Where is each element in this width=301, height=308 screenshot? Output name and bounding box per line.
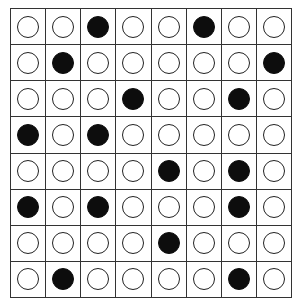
board-cell-r1-c5[interactable]	[187, 45, 222, 81]
empty-circle-icon	[52, 196, 74, 218]
filled-circle-icon	[228, 160, 250, 182]
board-cell-r4-c3[interactable]	[116, 154, 151, 190]
board-cell-r3-c1[interactable]	[46, 117, 81, 153]
board-cell-r5-c0[interactable]	[11, 190, 46, 226]
empty-circle-icon	[17, 52, 39, 74]
empty-circle-icon	[263, 232, 285, 254]
filled-circle-icon	[158, 232, 180, 254]
board-cell-r0-c7[interactable]	[257, 9, 292, 45]
empty-circle-icon	[17, 268, 39, 290]
board-cell-r6-c4[interactable]	[152, 226, 187, 262]
board-cell-r6-c3[interactable]	[116, 226, 151, 262]
empty-circle-icon	[158, 88, 180, 110]
board-cell-r4-c4[interactable]	[152, 154, 187, 190]
board-cell-r5-c1[interactable]	[46, 190, 81, 226]
board-cell-r0-c2[interactable]	[81, 9, 116, 45]
empty-circle-icon	[263, 196, 285, 218]
board-cell-r0-c4[interactable]	[152, 9, 187, 45]
filled-circle-icon	[87, 124, 109, 146]
board-cell-r4-c0[interactable]	[11, 154, 46, 190]
board-cell-r0-c5[interactable]	[187, 9, 222, 45]
board-cell-r1-c6[interactable]	[222, 45, 257, 81]
board-cell-r6-c7[interactable]	[257, 226, 292, 262]
board-cell-r3-c6[interactable]	[222, 117, 257, 153]
empty-circle-icon	[87, 160, 109, 182]
board-cell-r6-c0[interactable]	[11, 226, 46, 262]
board-cell-r4-c6[interactable]	[222, 154, 257, 190]
empty-circle-icon	[17, 160, 39, 182]
board-cell-r7-c0[interactable]	[11, 262, 46, 298]
board-cell-r3-c4[interactable]	[152, 117, 187, 153]
board-cell-r4-c5[interactable]	[187, 154, 222, 190]
board-cell-r7-c2[interactable]	[81, 262, 116, 298]
board-cell-r5-c2[interactable]	[81, 190, 116, 226]
board-cell-r7-c1[interactable]	[46, 262, 81, 298]
filled-circle-icon	[52, 52, 74, 74]
filled-circle-icon	[158, 160, 180, 182]
board-cell-r5-c7[interactable]	[257, 190, 292, 226]
board-cell-r1-c4[interactable]	[152, 45, 187, 81]
empty-circle-icon	[263, 88, 285, 110]
board-cell-r4-c1[interactable]	[46, 154, 81, 190]
board-cell-r2-c2[interactable]	[81, 81, 116, 117]
empty-circle-icon	[52, 124, 74, 146]
board-cell-r3-c5[interactable]	[187, 117, 222, 153]
board-cell-r7-c3[interactable]	[116, 262, 151, 298]
board-cell-r1-c3[interactable]	[116, 45, 151, 81]
board-cell-r7-c6[interactable]	[222, 262, 257, 298]
board-cell-r6-c1[interactable]	[46, 226, 81, 262]
board-cell-r2-c5[interactable]	[187, 81, 222, 117]
board-cell-r5-c4[interactable]	[152, 190, 187, 226]
board-cell-r0-c3[interactable]	[116, 9, 151, 45]
empty-circle-icon	[122, 124, 144, 146]
empty-circle-icon	[52, 232, 74, 254]
empty-circle-icon	[122, 196, 144, 218]
empty-circle-icon	[158, 124, 180, 146]
board-cell-r5-c6[interactable]	[222, 190, 257, 226]
board-cell-r4-c7[interactable]	[257, 154, 292, 190]
board-cell-r5-c5[interactable]	[187, 190, 222, 226]
board-cell-r7-c4[interactable]	[152, 262, 187, 298]
filled-circle-icon	[263, 52, 285, 74]
empty-circle-icon	[193, 52, 215, 74]
filled-circle-icon	[87, 196, 109, 218]
board-cell-r3-c2[interactable]	[81, 117, 116, 153]
board-cell-r1-c1[interactable]	[46, 45, 81, 81]
empty-circle-icon	[158, 16, 180, 38]
empty-circle-icon	[52, 16, 74, 38]
board-cell-r5-c3[interactable]	[116, 190, 151, 226]
board-cell-r0-c1[interactable]	[46, 9, 81, 45]
board-cell-r3-c3[interactable]	[116, 117, 151, 153]
board-cell-r2-c7[interactable]	[257, 81, 292, 117]
board-cell-r1-c0[interactable]	[11, 45, 46, 81]
board-cell-r6-c5[interactable]	[187, 226, 222, 262]
board-cell-r2-c1[interactable]	[46, 81, 81, 117]
board-cell-r2-c4[interactable]	[152, 81, 187, 117]
empty-circle-icon	[263, 268, 285, 290]
filled-circle-icon	[228, 88, 250, 110]
board-cell-r6-c6[interactable]	[222, 226, 257, 262]
board-cell-r3-c0[interactable]	[11, 117, 46, 153]
board-cell-r1-c2[interactable]	[81, 45, 116, 81]
empty-circle-icon	[122, 268, 144, 290]
board-cell-r0-c6[interactable]	[222, 9, 257, 45]
empty-circle-icon	[122, 52, 144, 74]
empty-circle-icon	[228, 124, 250, 146]
empty-circle-icon	[122, 232, 144, 254]
board-cell-r2-c0[interactable]	[11, 81, 46, 117]
board-cell-r2-c3[interactable]	[116, 81, 151, 117]
board-cell-r4-c2[interactable]	[81, 154, 116, 190]
board-cell-r7-c7[interactable]	[257, 262, 292, 298]
board-cell-r1-c7[interactable]	[257, 45, 292, 81]
empty-circle-icon	[87, 268, 109, 290]
board-cell-r0-c0[interactable]	[11, 9, 46, 45]
empty-circle-icon	[87, 232, 109, 254]
board-cell-r3-c7[interactable]	[257, 117, 292, 153]
empty-circle-icon	[158, 268, 180, 290]
board-cell-r7-c5[interactable]	[187, 262, 222, 298]
filled-circle-icon	[122, 88, 144, 110]
board-cell-r2-c6[interactable]	[222, 81, 257, 117]
board-cell-r6-c2[interactable]	[81, 226, 116, 262]
filled-circle-icon	[52, 268, 74, 290]
filled-circle-icon	[228, 196, 250, 218]
